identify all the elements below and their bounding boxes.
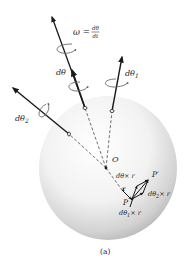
omega-label: ω = xyxy=(73,27,90,37)
dtheta-vector xyxy=(72,70,85,108)
dtheta2-cross-r-label: dθ2× r xyxy=(148,190,171,199)
point-p-prime-label: P′ xyxy=(151,170,159,179)
sphere xyxy=(39,96,177,240)
omega-fraction-num: dθ xyxy=(92,25,100,31)
dtheta-label: dθ xyxy=(56,68,66,77)
dtheta1-cross-r-label: dθ1× r xyxy=(119,209,142,218)
dtheta-cross-r-label: dθ× r xyxy=(116,172,136,180)
dtheta2-label: dθ2 xyxy=(15,114,29,124)
rotation-diagram: ω = dθ dt dθ dθ1 dθ2 O dθ× r r P′ P dθ2×… xyxy=(0,0,187,267)
point-p-label: P xyxy=(122,198,129,207)
r-label: r xyxy=(122,185,126,193)
origin-point xyxy=(105,167,108,170)
dtheta2-vector xyxy=(13,88,69,134)
origin-label: O xyxy=(112,155,119,164)
omega-fraction-den: dt xyxy=(93,33,100,39)
point-p xyxy=(131,198,134,201)
dtheta1-label: dθ1 xyxy=(125,69,139,79)
figure-caption: (a) xyxy=(100,247,110,256)
